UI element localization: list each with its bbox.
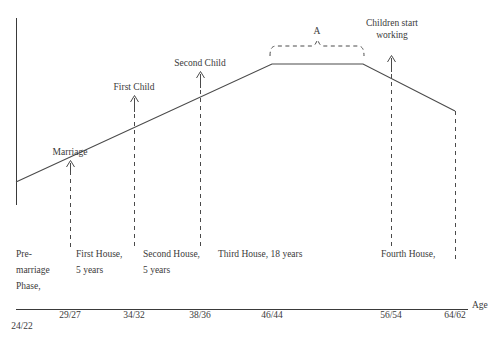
annotation-first-child: First Child (114, 82, 155, 94)
diagram-canvas (0, 0, 495, 345)
annotation-children-start-working-line1: Children start (352, 18, 432, 30)
arrow-children-start-working (388, 56, 396, 73)
plateau-bracket (270, 40, 364, 57)
annotation-second-child: Second Child (174, 58, 225, 70)
x-tick-29-27: 29/27 (59, 310, 81, 320)
phase-pre-marriage-line3: Phase, (16, 278, 50, 294)
phase-label-first-house: First House, 5 years (76, 246, 122, 278)
phase-second-house-line2: 5 years (143, 262, 200, 278)
x-tick-34-32: 34/32 (123, 310, 145, 320)
annotation-marriage: Marriage (53, 147, 88, 159)
arrow-first-child (131, 96, 139, 113)
x-tick-56-54: 56/54 (380, 310, 402, 320)
x-tick-46-44: 46/44 (261, 310, 283, 320)
arrow-second-child (197, 72, 205, 89)
phase-third-house-line1: Third House, 18 years (218, 246, 302, 262)
phase-pre-marriage-line2: marriage (16, 262, 50, 278)
x-tick-24-22: 24/22 (11, 321, 33, 331)
phase-label-second-house: Second House, 5 years (143, 246, 200, 278)
phase-label-fourth-house: Fourth House, (381, 246, 435, 262)
annotation-children-start-working-line2: working (352, 30, 432, 42)
annotation-children-start-working: Children start working (352, 18, 432, 41)
phase-second-house-line1: Second House, (143, 246, 200, 262)
arrow-marriage (67, 161, 75, 176)
phase-first-house-line2: 5 years (76, 262, 122, 278)
x-axis-label: Age (472, 300, 488, 310)
phase-label-third-house: Third House, 18 years (218, 246, 302, 262)
income-path-line (16, 64, 455, 182)
phase-label-pre-marriage: Pre- marriage Phase, (16, 246, 50, 294)
x-tick-64-62: 64/62 (444, 310, 466, 320)
life-cycle-housing-diagram: Marriage First Child Second Child Childr… (0, 0, 495, 345)
bracket-label-a: A (314, 26, 321, 38)
x-tick-38-36: 38/36 (189, 310, 211, 320)
phase-pre-marriage-line1: Pre- (16, 246, 50, 262)
phase-first-house-line1: First House, (76, 246, 122, 262)
phase-fourth-house-line1: Fourth House, (381, 246, 435, 262)
